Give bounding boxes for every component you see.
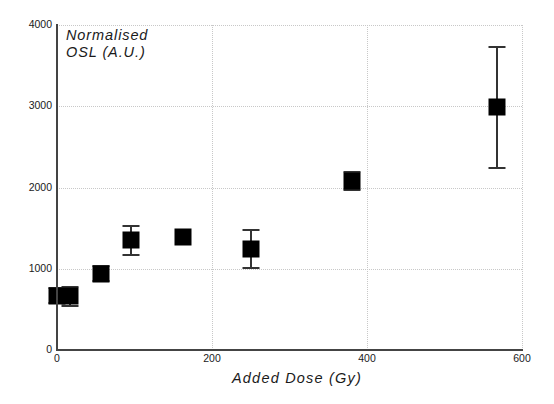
data-point-marker — [93, 265, 110, 282]
gridline-horizontal — [57, 106, 522, 107]
y-axis-tick-label: 3000 — [0, 99, 52, 111]
error-bar-cap — [123, 225, 140, 227]
x-axis-tick-label: 600 — [502, 352, 542, 364]
x-axis-tick-label: 200 — [192, 352, 232, 364]
y-axis-line — [56, 24, 58, 351]
error-bar-cap — [62, 305, 79, 307]
error-bar-cap — [242, 229, 259, 231]
chart-figure: Normalised OSL (A.U.) Added Dose (Gy) 01… — [0, 0, 554, 404]
error-bar-cap — [123, 254, 140, 256]
error-bar-cap — [489, 167, 506, 169]
data-point-marker — [242, 240, 259, 257]
gridline-vertical — [367, 25, 368, 350]
gridline-vertical — [522, 25, 523, 350]
gridline-horizontal — [57, 188, 522, 189]
x-axis-tick-label: 400 — [347, 352, 387, 364]
y-axis-title: Normalised OSL (A.U.) — [66, 27, 148, 61]
y-axis-tick-label: 2000 — [0, 181, 52, 193]
data-point-marker — [344, 173, 361, 190]
gridline-horizontal — [57, 25, 522, 26]
data-point-marker — [62, 288, 79, 305]
data-point-marker — [175, 229, 192, 246]
y-axis-tick-label: 4000 — [0, 18, 52, 30]
x-axis-title: Added Dose (Gy) — [0, 370, 554, 386]
gridline-vertical — [212, 25, 213, 350]
error-bar-cap — [344, 189, 361, 191]
plot-area — [57, 25, 522, 350]
x-axis-tick-label: 0 — [37, 352, 77, 364]
x-axis-line — [56, 349, 523, 351]
data-point-marker — [489, 99, 506, 116]
gridline-horizontal — [57, 269, 522, 270]
data-point-marker — [123, 232, 140, 249]
y-axis-tick-label: 1000 — [0, 262, 52, 274]
error-bar-cap — [489, 46, 506, 48]
error-bar-cap — [242, 267, 259, 269]
